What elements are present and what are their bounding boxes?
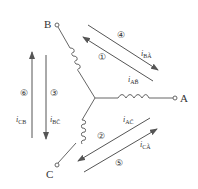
arrow-1 bbox=[83, 37, 153, 81]
current-ac-label: iAC̃ bbox=[123, 115, 134, 125]
winding-a bbox=[95, 95, 177, 101]
arrow-3-number: ③ bbox=[50, 88, 58, 98]
winding-b bbox=[55, 23, 95, 98]
winding-c bbox=[55, 98, 95, 167]
arrow-2-number: ② bbox=[97, 131, 105, 141]
current-bc-label: iBC̃ bbox=[50, 115, 60, 125]
current-ab-label: iAB̃ bbox=[128, 75, 139, 85]
arrow-5-number: ⑤ bbox=[115, 158, 123, 168]
arrow-6-number: ⑥ bbox=[20, 88, 28, 98]
terminal-c-label: C bbox=[46, 168, 53, 180]
terminal-a-label: A bbox=[180, 92, 188, 104]
arrow-4-number: ④ bbox=[117, 30, 125, 40]
terminal-b-label: B bbox=[44, 18, 51, 30]
arrow-1-number: ① bbox=[98, 52, 106, 62]
current-ca-label: iCÃ bbox=[140, 140, 151, 150]
current-ba-label: iBÃ bbox=[141, 49, 152, 59]
star-winding-diagram: B A C ④ ① iBÃ iAB̃ ⑥ ③ iCB iBC̃ ② ⑤ iAC̃… bbox=[0, 0, 198, 189]
current-cb-label: iCB bbox=[16, 115, 26, 125]
